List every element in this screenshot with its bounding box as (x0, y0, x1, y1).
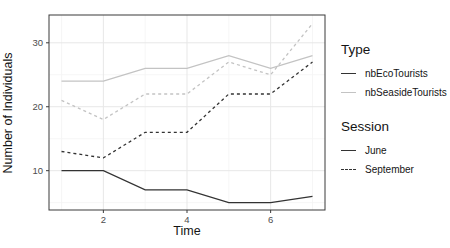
legend-item-september: September (341, 160, 449, 179)
axis-tick-labels: 246102030 (32, 37, 273, 225)
legend-item-nbecotourists: nbEcoTourists (341, 64, 449, 83)
line-swatch-dark-solid-icon (341, 73, 356, 74)
legend-label: September (365, 164, 414, 175)
legend-label: nbEcoTourists (365, 68, 428, 79)
legend-label: nbSeasideTourists (365, 87, 447, 98)
line-chart-figure: 246102030 Time Number of Individuals Typ… (0, 0, 450, 248)
line-swatch-dashed-icon (341, 169, 356, 170)
y-tick-label: 30 (32, 37, 43, 48)
x-axis-title: Time (142, 224, 232, 238)
legend-item-nbseasidetourists: nbSeasideTourists (341, 83, 449, 102)
line-swatch-solid-icon (341, 150, 356, 151)
legend-group-session: Session June September (341, 119, 449, 179)
legend: Type nbEcoTourists nbSeasideTourists Ses… (341, 42, 449, 179)
x-tick-label: 2 (101, 214, 106, 225)
legend-title-session: Session (341, 119, 449, 134)
legend-label: June (365, 145, 387, 156)
y-axis-title: Number of Individuals (1, 28, 15, 198)
y-tick-label: 10 (32, 165, 43, 176)
legend-group-type: Type nbEcoTourists nbSeasideTourists (341, 42, 449, 102)
legend-item-june: June (341, 141, 449, 160)
line-swatch-light-solid-icon (341, 92, 356, 93)
x-tick-label: 6 (268, 214, 273, 225)
y-tick-label: 20 (32, 101, 43, 112)
legend-title-type: Type (341, 42, 449, 57)
major-gridlines (49, 15, 325, 210)
